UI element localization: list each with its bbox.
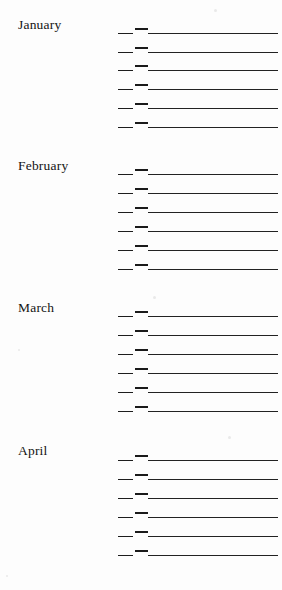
baseline-dash-mark	[118, 212, 133, 213]
entry-row[interactable]	[0, 305, 282, 319]
entry-row[interactable]	[0, 487, 282, 501]
raised-dash-mark	[135, 103, 148, 105]
baseline-dash-mark	[118, 33, 133, 34]
raised-dash-mark	[135, 122, 148, 124]
entry-write-line[interactable]	[148, 316, 278, 317]
entry-write-line[interactable]	[148, 70, 278, 71]
raised-dash-mark	[135, 65, 148, 67]
baseline-dash-mark	[118, 411, 133, 412]
baseline-dash-mark	[118, 354, 133, 355]
raised-dash-mark	[135, 455, 148, 457]
entry-write-line[interactable]	[148, 52, 278, 53]
baseline-dash-mark	[118, 127, 133, 128]
raised-dash-mark	[135, 188, 148, 190]
ledger-page: JanuaryFebruaryMarchApril	[0, 0, 282, 590]
entry-write-line[interactable]	[148, 250, 278, 251]
raised-dash-mark	[135, 531, 148, 533]
raised-dash-mark	[135, 47, 148, 49]
entry-row[interactable]	[0, 381, 282, 395]
entry-write-line[interactable]	[148, 89, 278, 90]
entry-row[interactable]	[0, 239, 282, 253]
entry-write-line[interactable]	[148, 33, 278, 34]
entry-row[interactable]	[0, 258, 282, 272]
raised-dash-mark	[135, 474, 148, 476]
raised-dash-mark	[135, 226, 148, 228]
entry-write-line[interactable]	[148, 269, 278, 270]
entry-row[interactable]	[0, 343, 282, 357]
entry-write-line[interactable]	[148, 127, 278, 128]
baseline-dash-mark	[118, 392, 133, 393]
entry-write-line[interactable]	[148, 193, 278, 194]
scan-speckle	[214, 9, 217, 12]
baseline-dash-mark	[118, 108, 133, 109]
scan-speckle	[6, 575, 8, 577]
entry-row[interactable]	[0, 163, 282, 177]
entry-write-line[interactable]	[148, 392, 278, 393]
raised-dash-mark	[135, 207, 148, 209]
entry-row[interactable]	[0, 362, 282, 376]
raised-dash-mark	[135, 550, 148, 552]
baseline-dash-mark	[118, 269, 133, 270]
entry-row[interactable]	[0, 506, 282, 520]
entry-row[interactable]	[0, 544, 282, 558]
entry-write-line[interactable]	[148, 555, 278, 556]
raised-dash-mark	[135, 169, 148, 171]
entry-row[interactable]	[0, 468, 282, 482]
baseline-dash-mark	[118, 555, 133, 556]
baseline-dash-mark	[118, 498, 133, 499]
entry-write-line[interactable]	[148, 212, 278, 213]
raised-dash-mark	[135, 406, 148, 408]
baseline-dash-mark	[118, 174, 133, 175]
baseline-dash-mark	[118, 479, 133, 480]
entry-row[interactable]	[0, 201, 282, 215]
entry-write-line[interactable]	[148, 517, 278, 518]
entry-write-line[interactable]	[148, 460, 278, 461]
entry-write-line[interactable]	[148, 354, 278, 355]
baseline-dash-mark	[118, 193, 133, 194]
entry-write-line[interactable]	[148, 536, 278, 537]
baseline-dash-mark	[118, 460, 133, 461]
baseline-dash-mark	[118, 517, 133, 518]
scan-speckle	[153, 296, 156, 299]
raised-dash-mark	[135, 493, 148, 495]
raised-dash-mark	[135, 311, 148, 313]
entry-write-line[interactable]	[148, 108, 278, 109]
baseline-dash-mark	[118, 250, 133, 251]
raised-dash-mark	[135, 330, 148, 332]
entry-write-line[interactable]	[148, 231, 278, 232]
entry-write-line[interactable]	[148, 335, 278, 336]
baseline-dash-mark	[118, 70, 133, 71]
raised-dash-mark	[135, 387, 148, 389]
entry-row[interactable]	[0, 324, 282, 338]
entry-row[interactable]	[0, 182, 282, 196]
entry-row[interactable]	[0, 41, 282, 55]
entry-row[interactable]	[0, 400, 282, 414]
entry-row[interactable]	[0, 449, 282, 463]
baseline-dash-mark	[118, 335, 133, 336]
baseline-dash-mark	[118, 316, 133, 317]
entry-write-line[interactable]	[148, 411, 278, 412]
raised-dash-mark	[135, 28, 148, 30]
raised-dash-mark	[135, 84, 148, 86]
raised-dash-mark	[135, 512, 148, 514]
entry-row[interactable]	[0, 78, 282, 92]
baseline-dash-mark	[118, 536, 133, 537]
entry-write-line[interactable]	[148, 373, 278, 374]
baseline-dash-mark	[118, 231, 133, 232]
raised-dash-mark	[135, 264, 148, 266]
raised-dash-mark	[135, 245, 148, 247]
entry-row[interactable]	[0, 59, 282, 73]
entry-write-line[interactable]	[148, 498, 278, 499]
entry-write-line[interactable]	[148, 479, 278, 480]
entry-write-line[interactable]	[148, 174, 278, 175]
baseline-dash-mark	[118, 52, 133, 53]
scan-speckle	[228, 436, 231, 439]
baseline-dash-mark	[118, 89, 133, 90]
baseline-dash-mark	[118, 373, 133, 374]
entry-row[interactable]	[0, 525, 282, 539]
entry-row[interactable]	[0, 220, 282, 234]
entry-row[interactable]	[0, 97, 282, 111]
entry-row[interactable]	[0, 116, 282, 130]
raised-dash-mark	[135, 368, 148, 370]
entry-row[interactable]	[0, 22, 282, 36]
